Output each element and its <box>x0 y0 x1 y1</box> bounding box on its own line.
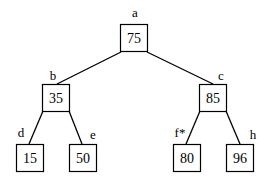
edge-b-e <box>69 111 82 144</box>
edge-c-f <box>186 111 200 144</box>
node-label: b <box>50 68 57 83</box>
node-h: 96 h <box>227 127 257 172</box>
node-d: 15 d <box>17 125 44 172</box>
node-value: 50 <box>76 151 90 166</box>
node-value: 35 <box>49 91 63 106</box>
edge-a-b <box>57 52 121 84</box>
node-label: d <box>18 125 25 140</box>
node-value: 96 <box>233 151 247 166</box>
node-label: c <box>218 68 224 83</box>
node-value: 15 <box>23 151 37 166</box>
node-value: 85 <box>206 91 220 106</box>
node-c: 85 c <box>200 68 227 112</box>
node-f: 80 f* <box>174 125 201 172</box>
binary-tree-diagram: 75 a 35 b 85 c 15 d 50 e 80 f* 96 h <box>0 0 268 184</box>
node-b: 35 b <box>43 68 70 112</box>
edge-b-d <box>29 111 43 144</box>
node-value: 75 <box>127 31 141 46</box>
node-value: 80 <box>180 151 194 166</box>
node-label: a <box>132 5 138 20</box>
node-e: 50 e <box>70 127 97 172</box>
node-label: h <box>250 127 257 142</box>
node-label: e <box>90 127 96 142</box>
node-label: f* <box>175 125 186 140</box>
edge-a-c <box>147 52 213 84</box>
node-a: 75 a <box>121 5 148 52</box>
edge-c-h <box>226 111 240 144</box>
